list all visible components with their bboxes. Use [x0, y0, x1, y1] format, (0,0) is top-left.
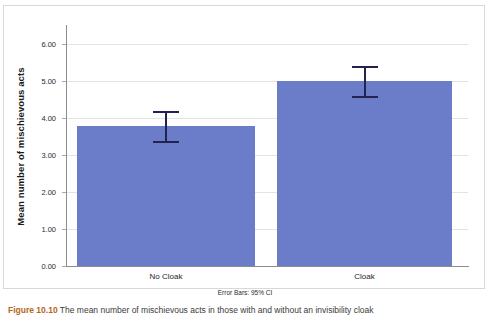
y-axis-line	[66, 25, 67, 267]
error-bars-note: Error Bars: 95% CI	[0, 289, 490, 296]
x-axis-category-label: No Cloak	[77, 272, 255, 281]
figure-caption: Figure 10.10 The mean number of mischiev…	[8, 305, 486, 315]
x-axis-line	[66, 266, 469, 267]
figure-caption-text: The mean number of mischievous acts in t…	[60, 305, 374, 315]
y-axis-tick-label: 6.00	[26, 39, 56, 48]
error-bar-cap-upper	[153, 111, 179, 113]
bar-no-cloak[interactable]	[77, 126, 255, 266]
y-axis-tick-label: 1.00	[26, 224, 56, 233]
y-axis-tick-label: 2.00	[26, 187, 56, 196]
plot-area: 0.001.002.003.004.005.006.00	[66, 25, 468, 266]
y-axis-tick-label: 5.00	[26, 76, 56, 85]
error-bar-cap-lower	[352, 96, 378, 98]
y-axis-tick-label: 3.00	[26, 150, 56, 159]
x-axis-category-label: Cloak	[277, 272, 452, 281]
error-bar-line	[165, 111, 167, 140]
y-axis-tick-label: 0.00	[26, 262, 56, 271]
figure-caption-number: Figure 10.10	[8, 305, 58, 315]
error-bar-cap-lower	[153, 141, 179, 143]
gridline	[66, 44, 468, 45]
error-bar-line	[364, 66, 366, 96]
bar-cloak[interactable]	[277, 81, 452, 266]
figure-container: Mean number of mischievous acts 0.001.00…	[0, 0, 490, 315]
y-axis-title-label: Mean number of mischievous acts	[15, 67, 26, 225]
y-axis-tick-label: 4.00	[26, 113, 56, 122]
error-bar-cap-upper	[352, 66, 378, 68]
